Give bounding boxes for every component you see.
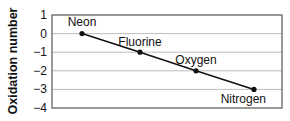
y-tick-label: 0 <box>40 27 47 41</box>
data-point <box>79 31 84 36</box>
oxidation-number-chart: Oxidation number 10−1−2−3−4 NeonFluorine… <box>0 0 290 121</box>
y-ticks: 10−1−2−3−4 <box>33 8 47 115</box>
point-label: Fluorine <box>118 35 162 49</box>
data-point <box>193 68 198 73</box>
y-tick-label: −3 <box>33 82 47 96</box>
data-point <box>251 87 256 92</box>
y-tick-label: −4 <box>33 101 47 115</box>
data-line <box>82 34 254 90</box>
point-label: Oxygen <box>175 53 216 67</box>
point-label: Neon <box>68 15 97 29</box>
y-tick-label: −2 <box>33 64 47 78</box>
y-tick-label: 1 <box>40 8 47 22</box>
point-label: Nitrogen <box>221 92 266 106</box>
data-point <box>137 50 142 55</box>
y-tick-label: −1 <box>33 45 47 59</box>
y-axis-label: Oxidation number <box>6 7 20 114</box>
